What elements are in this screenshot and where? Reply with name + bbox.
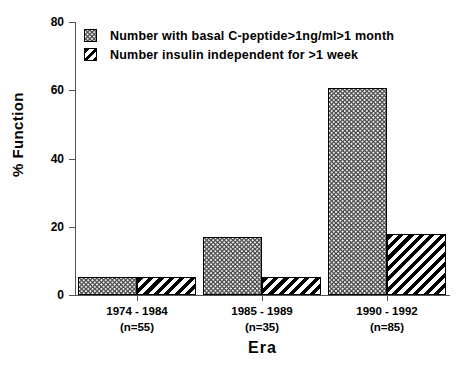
y-axis-line (75, 22, 76, 295)
bar-chart-figure: % Function 80 60 40 20 0 1974 - 1984 (n=… (0, 0, 458, 371)
y-tick-label-0: 0 (24, 289, 64, 301)
legend-label-2: Number insulin independent for >1 week (110, 48, 358, 62)
legend-item-1: Number with basal C-peptide>1ng/ml>1 mon… (84, 26, 394, 45)
chart-legend: Number with basal C-peptide>1ng/ml>1 mon… (84, 26, 394, 64)
bar-series2-group3 (387, 234, 446, 295)
x-group-label-1-range: 1974 - 1984 (106, 305, 167, 317)
x-group-label-2-n: (n=35) (192, 319, 332, 335)
y-tick-mark-60 (69, 90, 75, 91)
x-tick-mark-3 (387, 295, 388, 301)
x-tick-mark-1 (137, 295, 138, 301)
bar-series1-group3 (328, 88, 387, 295)
legend-swatch-wave-icon (84, 29, 97, 42)
y-tick-mark-40 (69, 159, 75, 160)
bar-series2-group1 (137, 277, 196, 295)
y-tick-mark-80 (69, 22, 75, 23)
bar-series2-group2 (262, 277, 321, 295)
y-tick-label-60: 60 (24, 84, 64, 96)
y-tick-label-20: 20 (24, 221, 64, 233)
x-group-label-3-n: (n=85) (317, 319, 457, 335)
legend-item-2: Number insulin independent for >1 week (84, 45, 394, 64)
x-group-label-3: 1990 - 1992 (n=85) (317, 303, 457, 335)
x-group-label-3-range: 1990 - 1992 (356, 305, 417, 317)
x-group-label-2: 1985 - 1989 (n=35) (192, 303, 332, 335)
x-axis-title: Era (75, 339, 450, 357)
y-tick-mark-0 (69, 295, 75, 296)
legend-label-1: Number with basal C-peptide>1ng/ml>1 mon… (110, 29, 394, 43)
bar-series1-group1 (78, 277, 137, 295)
legend-swatch-diagonal-icon (84, 48, 97, 61)
x-tick-mark-2 (262, 295, 263, 301)
y-tick-mark-20 (69, 227, 75, 228)
y-tick-label-80: 80 (24, 16, 64, 28)
x-group-label-2-range: 1985 - 1989 (231, 305, 292, 317)
y-axis-title: % Function (9, 85, 26, 185)
x-group-label-1: 1974 - 1984 (n=55) (67, 303, 207, 335)
y-tick-label-40: 40 (24, 153, 64, 165)
x-group-label-1-n: (n=55) (67, 319, 207, 335)
bar-series1-group2 (203, 237, 262, 295)
